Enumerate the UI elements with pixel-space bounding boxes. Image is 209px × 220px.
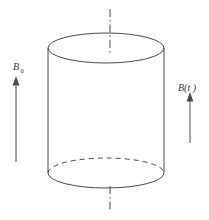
physics-figure-canvas: B 0 B(t ) [0,0,209,220]
cylinder [48,33,164,188]
cylinder-bottom-back-arc-hidden [48,158,164,173]
cylinder-top-ellipse [48,33,164,63]
b0-label: B [13,61,19,72]
b0-field-up-arrow-icon [13,76,20,162]
b0-arrow-head [13,76,20,86]
bt-field-up-arrow-icon [187,92,194,143]
cylinder-field-diagram: B 0 B(t ) [0,0,209,220]
bt-label: B(t ) [178,82,197,94]
cylinder-bottom-front-arc [48,173,164,188]
bt-arrow-head [187,92,194,102]
b0-label-subscript: 0 [21,67,24,74]
